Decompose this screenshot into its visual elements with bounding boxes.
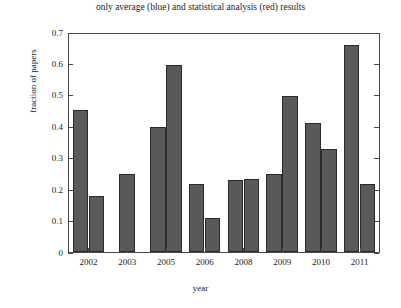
bar <box>344 45 360 252</box>
x-axis-tick-mark <box>360 248 361 253</box>
bar <box>321 149 337 252</box>
x-axis-tick-mark <box>127 248 128 253</box>
bar <box>189 184 205 253</box>
bar <box>266 174 282 252</box>
x-axis-tick-mark <box>166 248 167 253</box>
y-axis-tick-label: 0.5 <box>30 89 63 101</box>
y-axis-tick-label: 0.6 <box>30 58 63 70</box>
chart-title: only average (blue) and statistical anal… <box>0 1 401 13</box>
x-axis-title: year <box>0 283 401 293</box>
bar <box>305 123 321 252</box>
y-axis-tick-label: 0.7 <box>30 27 63 39</box>
y-axis-tick-mark <box>68 253 73 254</box>
bars-layer <box>69 34 379 252</box>
x-axis-tick-mark <box>243 248 244 253</box>
bar <box>119 174 135 252</box>
x-axis-tick-mark <box>88 248 89 253</box>
x-axis-tick-mark <box>282 248 283 253</box>
y-axis-tick-mark <box>374 253 379 254</box>
y-axis-tick-label: 0.4 <box>30 121 63 133</box>
bar <box>150 127 166 252</box>
bar <box>282 96 298 252</box>
y-axis-tick-label: 0.3 <box>30 152 63 164</box>
bar <box>360 184 376 253</box>
bar <box>166 65 182 252</box>
x-axis-tick-mark <box>205 248 206 253</box>
y-axis-tick-label: 0.1 <box>30 215 63 227</box>
x-axis-tick-label: 2011 <box>337 256 383 268</box>
bar <box>228 180 244 252</box>
bar <box>205 218 221 252</box>
bar <box>89 196 105 252</box>
y-axis-tick-label: 0.2 <box>30 184 63 196</box>
x-axis-tick-mark <box>321 248 322 253</box>
bar <box>244 179 260 252</box>
y-axis-tick-label: 0 <box>30 247 63 259</box>
y-axis-title: fraction of papers <box>28 1 38 161</box>
bar <box>73 110 89 252</box>
